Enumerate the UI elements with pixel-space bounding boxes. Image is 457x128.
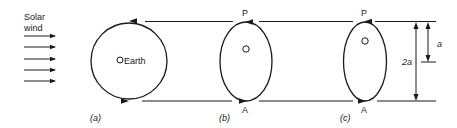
dimension-2a-label: 2a	[401, 57, 412, 67]
elliptical-orbit-b	[220, 22, 272, 101]
focus-marker-c	[362, 38, 368, 44]
solar-wind-text-line1: Solar	[24, 12, 45, 22]
orbit-diagram: Solar wind Earth (a) P A (b)	[0, 0, 457, 128]
caption-c: (c)	[340, 113, 351, 123]
earth-label: Earth	[124, 56, 146, 66]
earth-marker	[117, 57, 123, 63]
caption-a: (a)	[90, 113, 101, 123]
apogee-label-c: A	[361, 105, 367, 115]
dimension-a-label: a	[437, 39, 442, 49]
orbit-arrow-left-icon	[245, 19, 253, 25]
arrow-up-icon	[414, 22, 419, 29]
panel-a: Earth (a)	[90, 18, 167, 123]
apogee-label-b: A	[242, 105, 248, 115]
dimension-markers: a 2a	[401, 22, 442, 101]
focus-marker-b	[243, 46, 249, 52]
panel-b: P A (b)	[219, 8, 272, 123]
perigee-label-b: P	[242, 8, 248, 18]
perigee-label-c: P	[361, 8, 367, 18]
orbit-arrow-right-icon	[239, 98, 247, 104]
solar-wind-label: Solar wind	[23, 12, 45, 33]
solar-wind-arrows	[24, 36, 55, 81]
orbit-arrow-left-icon	[364, 19, 372, 25]
caption-b: (b)	[219, 113, 230, 123]
arrow-down-icon	[426, 55, 431, 62]
solar-wind-text-line2: wind	[23, 23, 43, 33]
panel-c: P A (c)	[340, 8, 387, 123]
arrow-down-icon	[414, 94, 419, 101]
arrow-up-icon	[426, 22, 431, 29]
elliptical-orbit-c	[344, 22, 387, 101]
orbit-arrow-right-icon	[358, 98, 366, 104]
